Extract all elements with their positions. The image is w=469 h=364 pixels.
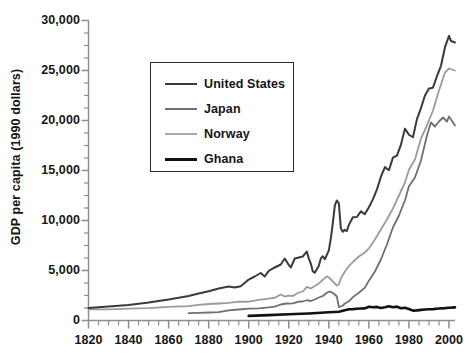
series-line-ghana: [249, 306, 455, 316]
legend-label: Japan: [204, 102, 241, 116]
legend-item-ghana[interactable]: Ghana: [165, 152, 243, 166]
legend-item-united-states[interactable]: United States: [165, 77, 285, 91]
legend-swatch-norway: [165, 133, 197, 135]
legend-swatch-united-states: [165, 83, 197, 85]
legend: United StatesJapanNorwayGhana: [150, 62, 294, 172]
legend-label: Norway: [204, 127, 250, 141]
plot-area: [0, 0, 469, 364]
legend-label: United States: [204, 77, 285, 91]
legend-label: Ghana: [204, 152, 243, 166]
legend-swatch-japan: [165, 108, 197, 110]
gdp-per-capita-line-chart: GDP per capita (1990 dollars) 05,00010,0…: [0, 0, 469, 364]
legend-item-japan[interactable]: Japan: [165, 102, 241, 116]
legend-swatch-ghana: [165, 158, 197, 161]
legend-item-norway[interactable]: Norway: [165, 127, 250, 141]
